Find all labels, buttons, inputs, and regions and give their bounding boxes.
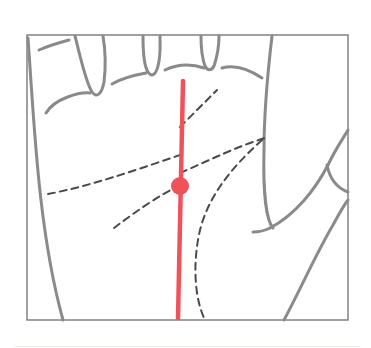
heart-line-left xyxy=(48,155,180,194)
diagram-frame xyxy=(27,35,348,320)
life-line xyxy=(195,140,262,320)
head-line-lower xyxy=(114,185,180,228)
bottom-divider xyxy=(14,346,361,347)
fate-line-marker xyxy=(171,177,189,195)
fate-line xyxy=(178,81,183,318)
hand-outline xyxy=(28,36,348,320)
heart-line xyxy=(180,90,217,127)
palm-diagram xyxy=(0,0,371,348)
head-line xyxy=(180,138,265,173)
